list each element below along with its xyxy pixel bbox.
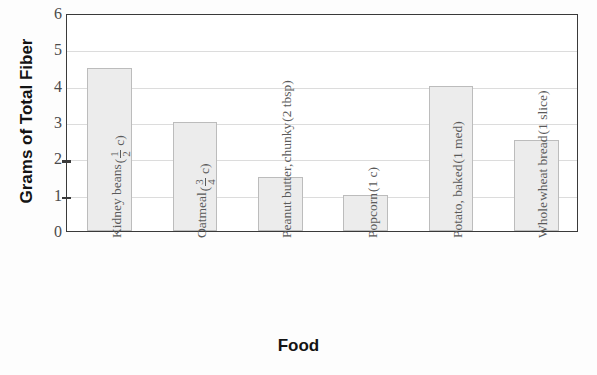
x-label-popcorn: (1 c)Popcorn — [365, 167, 380, 238]
x-label-amount-whole-wheat-bread: (1 slice) — [535, 91, 550, 135]
bar-chart-figure: Grams of Total Fiber 0123456 (12 c)Kidne… — [0, 0, 597, 375]
x-label-line-kidney-beans-0: Kidney beans — [109, 164, 124, 238]
x-label-amount-oatmeal: (34 c) — [194, 163, 217, 191]
gridline-4 — [67, 88, 577, 89]
y-axis-tick-labels: 0123456 — [36, 0, 62, 240]
x-label-amount-popcorn: (1 c) — [365, 167, 380, 192]
x-label-amount-peanut-butter-chunky: (2 tbsp) — [279, 80, 294, 122]
y-tick-label-5: 5 — [36, 41, 62, 59]
x-label-whole-wheat-bread: (1 slice)wheat breadWhole — [535, 91, 550, 238]
x-label-oatmeal: (34 c)Oatmeal — [194, 163, 217, 238]
plot-area — [66, 14, 578, 232]
x-label-amount-kidney-beans: (12 c) — [109, 135, 132, 163]
y-tick-label-4: 4 — [36, 78, 62, 96]
x-label-line-whole-wheat-bread-0: wheat bread — [535, 135, 550, 201]
x-label-amount-potato-baked: (1 med) — [450, 121, 465, 163]
y-tickmark-2 — [62, 160, 71, 163]
x-label-peanut-butter-chunky: (2 tbsp)chunkyPeanut butter, — [279, 80, 294, 238]
y-tickmark-1 — [62, 197, 71, 200]
x-label-line-peanut-butter-chunky-1: Peanut butter, — [279, 164, 294, 238]
gridline-5 — [67, 51, 577, 52]
x-axis-title: Food — [0, 336, 597, 356]
x-label-line-peanut-butter-chunky-0: chunky — [279, 123, 294, 163]
y-tick-label-2: 2 — [36, 150, 62, 168]
y-tick-label-0: 0 — [36, 223, 62, 241]
y-tick-label-3: 3 — [36, 114, 62, 132]
gridline-1 — [67, 197, 577, 198]
x-label-potato-baked: (1 med)Potato, baked — [450, 121, 465, 238]
x-label-line-oatmeal-0: Oatmeal — [194, 192, 209, 238]
x-label-line-whole-wheat-bread-1: Whole — [535, 202, 550, 238]
x-label-kidney-beans: (12 c)Kidney beans — [109, 135, 132, 238]
gridline-3 — [67, 124, 577, 125]
gridline-2 — [67, 160, 577, 161]
fraction-oatmeal: 34 — [194, 178, 217, 186]
fraction-numerator: 1 — [109, 150, 120, 158]
y-tick-label-1: 1 — [36, 187, 62, 205]
fraction-denominator: 4 — [205, 178, 217, 186]
x-label-line-popcorn-0: Popcorn — [365, 193, 380, 238]
fraction-kidney-beans: 12 — [109, 150, 132, 158]
y-tick-label-6: 6 — [36, 5, 62, 23]
y-axis-title: Grams of Total Fiber — [17, 1, 37, 241]
plot-inner — [67, 15, 577, 231]
fraction-numerator: 3 — [194, 178, 205, 186]
x-label-line-potato-baked-0: Potato, baked — [450, 165, 465, 239]
fraction-denominator: 2 — [120, 150, 132, 158]
